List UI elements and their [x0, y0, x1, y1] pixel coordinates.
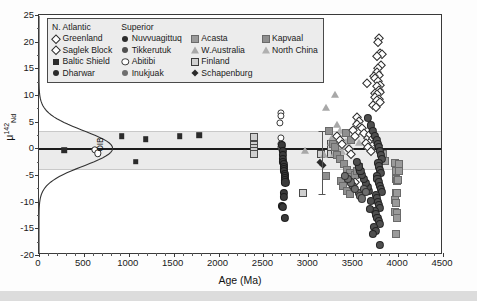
x-tick-minor — [344, 253, 345, 256]
legend-item-kapvaal[interactable]: Kapvaal — [262, 33, 318, 44]
legend-item-dharwar[interactable]: Dharwar — [52, 68, 112, 79]
y-tick-major — [35, 122, 39, 123]
y-tick-major — [35, 228, 39, 229]
legend-item-acasta[interactable]: Acasta — [191, 33, 253, 44]
y-tick-minor — [37, 108, 40, 109]
x-tick-minor — [147, 253, 148, 256]
legend-item-saglek-block[interactable]: Saglek Block — [52, 45, 112, 56]
x-tick-minor — [156, 253, 157, 256]
x-tick-minor — [120, 253, 121, 256]
legend-marker-circle-filled-icon — [121, 69, 129, 77]
data-point — [280, 214, 288, 222]
x-tick-minor — [416, 253, 417, 256]
legend-group-header: N. Atlantic — [52, 22, 112, 33]
legend-item-north-china[interactable]: North China — [262, 45, 318, 56]
data-point — [322, 104, 330, 111]
legend-item-label: Nuvvuagittuq — [132, 33, 182, 44]
y-tick-label: 15 — [23, 62, 34, 73]
x-tick-minor — [362, 253, 363, 256]
data-point — [392, 230, 400, 238]
legend-item-label: Baltic Shield — [63, 56, 110, 67]
legend-item-label: Inukjuak — [132, 68, 164, 79]
y-tick-major — [35, 202, 39, 203]
x-tick-minor — [111, 253, 112, 256]
y-tick-major — [35, 42, 39, 43]
data-point — [368, 230, 376, 238]
legend-item-finland[interactable]: Finland — [191, 56, 253, 67]
x-tick-minor — [371, 253, 372, 256]
x-tick-minor — [75, 253, 76, 256]
legend-marker-circle-filled-icon — [52, 69, 60, 77]
x-tick-minor — [138, 253, 139, 256]
y-tick-label: 5 — [29, 115, 34, 126]
y-tick-minor — [37, 135, 40, 136]
legend-item-tikkerutuk[interactable]: Tikkerutuk — [121, 45, 182, 56]
y-tick-label: -10 — [20, 195, 34, 206]
error-bar-line — [322, 131, 323, 194]
x-tick-minor — [228, 253, 229, 256]
x-tick-minor — [326, 253, 327, 256]
data-point — [376, 241, 384, 249]
x-tick-label: 0 — [35, 257, 40, 268]
legend-item-label: Tikkerutuk — [132, 45, 171, 56]
y-tick-major — [35, 148, 39, 149]
y-tick-major — [35, 175, 39, 176]
data-point — [392, 199, 400, 207]
x-axis-tick-labels: 050010001500200025003000350040004500 — [38, 257, 442, 271]
data-point — [331, 91, 339, 98]
data-point — [393, 214, 401, 222]
x-tick-minor — [317, 253, 318, 256]
y-axis-title-sub: Nd — [10, 114, 17, 123]
data-point — [325, 127, 333, 135]
x-tick-minor — [281, 253, 282, 256]
legend-marker-circle-open-icon — [121, 58, 129, 66]
y-tick-minor — [37, 188, 40, 189]
legend-marker-triangle-gray-icon — [262, 46, 270, 54]
x-tick-minor — [93, 253, 94, 256]
data-point — [177, 133, 183, 139]
legend-item-w-australia[interactable]: W.Australia — [191, 45, 253, 56]
data-point — [362, 79, 371, 88]
x-tick-minor — [425, 253, 426, 256]
figure-container: -20-15-10-50510152025 μ142Nd OIB 0500100… — [0, 0, 477, 301]
legend-item-label: Saglek Block — [63, 45, 113, 56]
error-bar-cap-lower — [318, 194, 325, 195]
legend-group-header — [191, 22, 253, 33]
data-point — [395, 160, 403, 168]
y-tick-minor — [37, 162, 40, 163]
legend-item-schapenburg[interactable]: Schapenburg — [191, 68, 253, 79]
y-tick-label: -15 — [20, 222, 34, 233]
x-tick-minor — [245, 253, 246, 256]
y-tick-minor — [37, 28, 40, 29]
data-point — [322, 172, 330, 180]
legend: N. AtlanticGreenlandSaglek BlockBaltic S… — [47, 18, 324, 83]
data-point — [196, 132, 202, 138]
x-tick-label: 4500 — [431, 257, 452, 268]
legend-item-greenland[interactable]: Greenland — [52, 33, 112, 44]
x-tick-minor — [210, 253, 211, 256]
legend-marker-square-hatched-icon — [191, 58, 199, 66]
legend-marker-diamond-open-icon — [52, 35, 60, 43]
x-tick-label: 4000 — [387, 257, 408, 268]
legend-item-label: Schapenburg — [201, 68, 252, 79]
x-tick-label: 1000 — [117, 257, 138, 268]
legend-marker-triangle-gray-icon — [191, 46, 199, 54]
legend-item-inukjuak[interactable]: Inukjuak — [121, 68, 182, 79]
x-tick-minor — [272, 253, 273, 256]
x-tick-minor — [290, 253, 291, 256]
data-point — [301, 147, 309, 154]
x-tick-minor — [335, 253, 336, 256]
legend-marker-diamond-open-icon — [52, 46, 60, 54]
x-tick-minor — [57, 253, 58, 256]
x-tick-minor — [407, 253, 408, 256]
legend-item-baltic-shield[interactable]: Baltic Shield — [52, 56, 112, 67]
legend-item-abitibi[interactable]: Abitibi — [121, 56, 182, 67]
legend-item-label: Acasta — [201, 33, 227, 44]
legend-item-label: Dharwar — [63, 68, 95, 79]
legend-item-nuvvuagittuq[interactable]: Nuvvuagittuq — [121, 33, 182, 44]
legend-marker-square-gray-icon — [262, 35, 270, 43]
x-tick-minor — [102, 253, 103, 256]
legend-group-header: Superior — [121, 22, 182, 33]
x-tick-minor — [183, 253, 184, 256]
y-tick-major — [35, 68, 39, 69]
